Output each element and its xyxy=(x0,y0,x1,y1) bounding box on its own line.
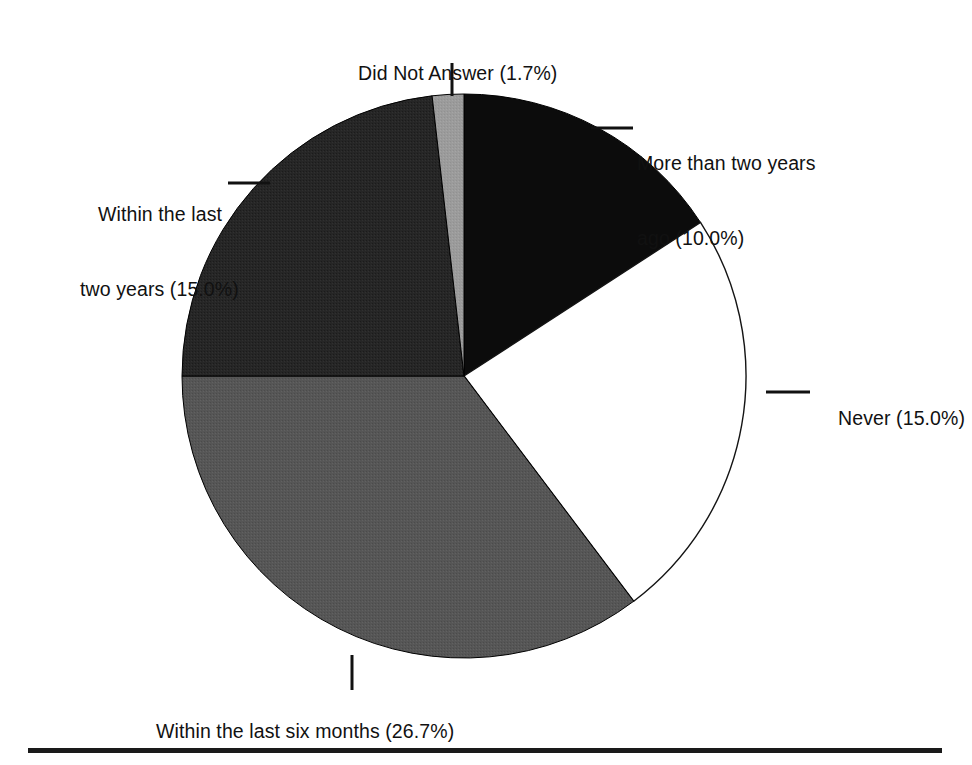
pie-slice-within-last-two-years xyxy=(182,96,464,376)
pie-label-within-last-six-months-text: Within the last six months (26.7%) xyxy=(156,720,454,742)
pie-chart-figure: Did Not Answer (1.7%) More than two year… xyxy=(0,0,972,765)
bottom-divider-rule xyxy=(28,748,942,753)
pie-label-within-last-two-years-line2: two years (15.0%) xyxy=(80,277,222,302)
pie-label-more-than-two-years-ago-line2: ago (10.0%) xyxy=(637,226,816,251)
pie-label-never-text: Never (15.0%) xyxy=(838,407,965,429)
pie-label-more-than-two-years-ago: More than two years ago (10.0%) xyxy=(637,101,816,301)
pie-label-more-than-two-years-ago-line1: More than two years xyxy=(637,151,816,176)
pie-label-within-last-six-months: Within the last six months (26.7%) xyxy=(134,694,454,765)
pie-label-did-not-answer: Did Not Answer (1.7%) xyxy=(336,36,557,111)
pie-label-within-last-two-years: Within the last two years (15.0%) xyxy=(80,152,222,352)
pie-label-did-not-answer-text: Did Not Answer (1.7%) xyxy=(358,62,557,84)
pie-label-never: Never (15.0%) xyxy=(816,381,965,456)
pie-label-within-last-two-years-line1: Within the last xyxy=(80,202,222,227)
